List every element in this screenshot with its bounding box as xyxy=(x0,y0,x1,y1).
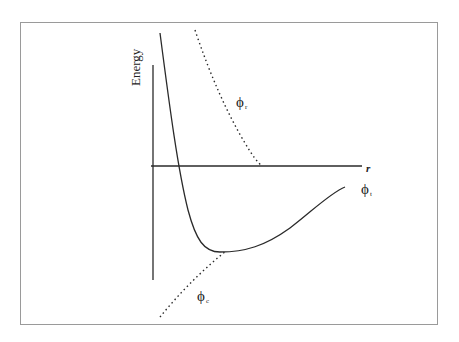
curve-phi-c xyxy=(160,251,226,317)
curve-phi-r xyxy=(195,30,262,166)
phi-subscript: t xyxy=(370,190,372,198)
phi-subscript: c xyxy=(206,297,209,305)
label-phi-t: ϕt xyxy=(361,181,372,198)
label-phi-r: ϕr xyxy=(236,94,247,111)
phi-symbol: ϕ xyxy=(236,94,244,110)
x-axis-label: r xyxy=(366,162,370,174)
curve-phi-t xyxy=(160,33,345,252)
label-phi-c: ϕc xyxy=(197,288,209,305)
y-axis-label: Energy xyxy=(128,49,144,86)
phi-subscript: r xyxy=(245,103,247,111)
energy-plot xyxy=(0,0,459,342)
phi-symbol: ϕ xyxy=(361,181,369,197)
phi-symbol: ϕ xyxy=(197,288,205,304)
